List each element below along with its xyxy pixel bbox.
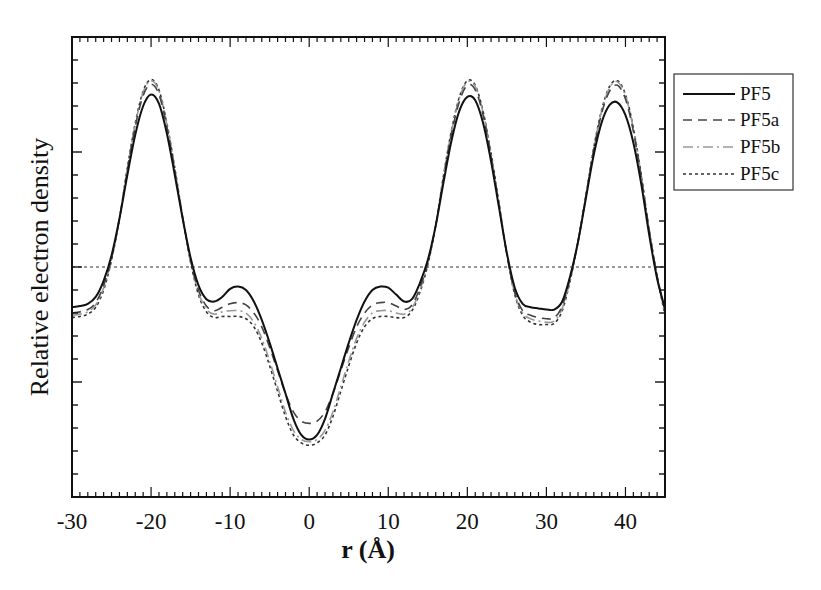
x-tick-label: 40	[614, 509, 637, 534]
legend: PF5PF5aPF5bPF5c	[674, 74, 793, 190]
legend-label: PF5b	[740, 136, 780, 157]
x-tick-label: -20	[136, 509, 167, 534]
legend-label: PF5	[740, 83, 771, 104]
series-layer	[72, 80, 665, 446]
x-tick-label: 10	[377, 509, 400, 534]
series-pf5c	[72, 80, 665, 446]
legend-label: PF5a	[740, 109, 780, 130]
y-axis-title: Relative electron density	[25, 138, 54, 396]
chart: -30-20-10010203040 r (Å) Relative electr…	[0, 0, 821, 590]
legend-label: PF5c	[740, 163, 779, 184]
x-tick-labels: -30-20-10010203040	[57, 509, 637, 534]
x-tick-label: 0	[303, 509, 315, 534]
series-pf5b	[72, 81, 665, 442]
x-tick-label: 20	[456, 509, 479, 534]
x-axis-title: r (Å)	[341, 535, 395, 564]
x-tick-label: -30	[57, 509, 88, 534]
x-tick-label: -10	[215, 509, 246, 534]
x-tick-label: 30	[535, 509, 558, 534]
